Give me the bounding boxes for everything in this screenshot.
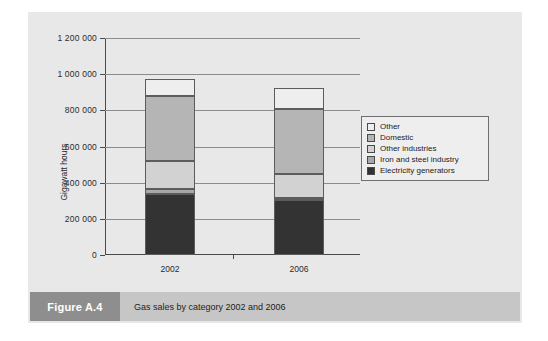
y-tick-mark — [100, 183, 105, 184]
y-tick-mark — [100, 219, 105, 220]
legend-label: Other industries — [380, 143, 436, 154]
bar-stack[interactable] — [145, 38, 195, 255]
legend-item[interactable]: Other — [367, 121, 483, 132]
bar-segment[interactable] — [145, 79, 195, 96]
legend-label: Electricity generators — [380, 165, 455, 176]
legend-swatch-icon — [367, 167, 375, 175]
legend-item[interactable]: Domestic — [367, 132, 483, 143]
legend-swatch-icon — [367, 156, 375, 164]
y-tick-label: 800 000 — [65, 105, 97, 115]
x-tick-mark — [233, 255, 234, 259]
y-tick-label: 0 — [92, 250, 97, 260]
x-tick-label: 2002 — [161, 264, 180, 274]
legend-label: Iron and steel industry — [380, 154, 459, 165]
y-tick-label: 1 200 000 — [57, 33, 97, 43]
plot-frame: 0200 000400 000600 000800 0001 000 0001 … — [105, 38, 360, 255]
chart-area: Gigawatt hours 0200 000400 000600 000800… — [28, 12, 522, 290]
figure-caption-text: Gas sales by category 2002 and 2006 — [134, 302, 286, 312]
y-tick-mark — [100, 110, 105, 111]
x-tick-label: 2006 — [290, 264, 309, 274]
y-tick-label: 600 000 — [65, 142, 97, 152]
figure-caption-block: Gas sales by category 2002 and 2006 — [120, 292, 520, 321]
legend-swatch-icon — [367, 123, 375, 131]
bar-segment[interactable] — [274, 174, 324, 198]
bar-segment[interactable] — [274, 200, 324, 255]
legend-label: Other — [380, 121, 400, 132]
chart-legend: OtherDomesticOther industriesIron and st… — [361, 116, 489, 181]
figure-panel: Gigawatt hours 0200 000400 000600 000800… — [28, 12, 522, 323]
bar-segment[interactable] — [274, 88, 324, 109]
bar-segment[interactable] — [145, 194, 195, 255]
y-tick-label: 1 000 000 — [57, 69, 97, 79]
bar-stack[interactable] — [274, 38, 324, 255]
figure-number-block: Figure A.4 — [30, 292, 120, 321]
legend-item[interactable]: Electricity generators — [367, 165, 483, 176]
legend-item[interactable]: Iron and steel industry — [367, 154, 483, 165]
bar-segment[interactable] — [145, 96, 195, 161]
y-tick-mark — [100, 74, 105, 75]
y-axis-title: Gigawatt hours — [59, 143, 69, 200]
bar-segment[interactable] — [274, 109, 324, 174]
bar-segment[interactable] — [274, 198, 324, 200]
figure-number-label: Figure A.4 — [47, 301, 102, 313]
bar-segment[interactable] — [145, 161, 195, 189]
figure-caption-bar: Figure A.4 Gas sales by category 2002 an… — [30, 292, 520, 321]
legend-swatch-icon — [367, 134, 375, 142]
legend-label: Domestic — [380, 132, 413, 143]
legend-swatch-icon — [367, 145, 375, 153]
y-tick-label: 400 000 — [65, 178, 97, 188]
y-tick-label: 200 000 — [65, 214, 97, 224]
y-tick-mark — [100, 38, 105, 39]
y-tick-mark — [100, 147, 105, 148]
y-tick-mark — [100, 255, 105, 256]
legend-item[interactable]: Other industries — [367, 143, 483, 154]
bar-segment[interactable] — [145, 189, 195, 194]
